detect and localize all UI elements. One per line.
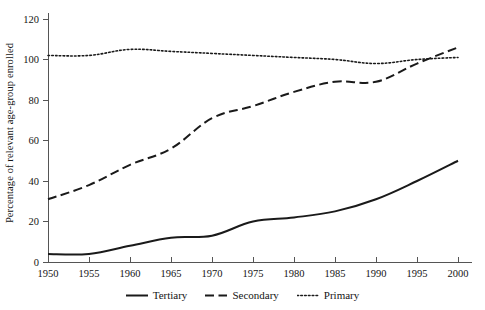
y-axis-tick-label: 80 <box>13 94 39 107</box>
series-line-primary <box>48 49 458 63</box>
x-axis-tick-label: 1965 <box>151 267 191 280</box>
chart-container: Percentage of relevant age-group enrolle… <box>0 0 485 310</box>
series-line-secondary <box>48 47 458 199</box>
legend-label: Primary <box>324 289 359 301</box>
x-axis-tick-label: 1950 <box>28 267 68 280</box>
series-line-tertiary <box>48 161 458 255</box>
x-axis-tick-label: 1980 <box>274 267 314 280</box>
legend-item-secondary[interactable]: Secondary <box>205 289 278 301</box>
y-axis-tick-label: 20 <box>13 215 39 228</box>
legend-item-tertiary[interactable]: Tertiary <box>126 289 188 301</box>
y-axis-tick-label: 120 <box>13 13 39 26</box>
x-axis-tick-label: 1970 <box>192 267 232 280</box>
x-axis-tick-label: 1985 <box>315 267 355 280</box>
y-axis-tick-label: 100 <box>13 53 39 66</box>
y-axis-tick-label: 60 <box>13 134 39 147</box>
axes <box>43 13 472 262</box>
legend-swatch-dotted-icon <box>297 291 319 300</box>
chart-legend: TertiarySecondaryPrimary <box>0 286 485 304</box>
x-axis-tick-label: 1955 <box>69 267 109 280</box>
legend-swatch-solid-icon <box>126 291 148 300</box>
legend-label: Secondary <box>232 289 278 301</box>
plot-area <box>0 0 485 310</box>
x-axis-tick-label: 2000 <box>438 267 478 280</box>
x-axis-tick-label: 1975 <box>233 267 273 280</box>
legend-swatch-dashed-icon <box>205 291 227 300</box>
legend-label: Tertiary <box>153 289 188 301</box>
x-axis-tick-label: 1960 <box>110 267 150 280</box>
data-series <box>48 47 458 254</box>
x-axis-tick-label: 1990 <box>356 267 396 280</box>
y-axis-tick-label: 40 <box>13 175 39 188</box>
legend-item-primary[interactable]: Primary <box>297 289 359 301</box>
x-axis-tick-label: 1995 <box>397 267 437 280</box>
